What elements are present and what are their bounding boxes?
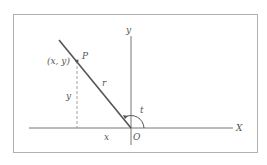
- polar-coordinate-diagram: X y O P (x, y) r t x y: [0, 0, 267, 165]
- radius-label: r: [102, 78, 107, 88]
- x-axis-label: X: [235, 123, 243, 133]
- x-length-label: x: [104, 132, 109, 142]
- angle-label: t: [140, 105, 144, 115]
- origin-label: O: [133, 132, 141, 142]
- y-length-label: y: [65, 91, 72, 101]
- point-label: P: [81, 51, 89, 61]
- point-p: [75, 59, 78, 62]
- coords-label: (x, y): [47, 56, 70, 66]
- y-axis-label: y: [125, 25, 132, 35]
